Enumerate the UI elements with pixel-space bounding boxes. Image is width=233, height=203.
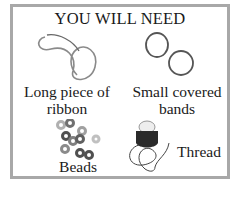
supplies-panel: YOU WILL NEED Long piece of ribbon Small…	[10, 4, 230, 179]
bands-label-line2: bands	[125, 100, 229, 117]
beads-icon	[53, 119, 109, 161]
ribbon-icon	[33, 27, 113, 83]
ribbon-label: Long piece of ribbon	[11, 83, 123, 117]
panel-title: YOU WILL NEED	[13, 9, 227, 29]
ribbon-label-line1: Long piece of	[11, 83, 123, 100]
thread-label: Thread	[171, 143, 227, 160]
thread-spool-icon	[125, 119, 177, 177]
bands-icon	[141, 31, 201, 79]
bands-label: Small covered bands	[125, 83, 229, 117]
ribbon-label-line2: ribbon	[11, 100, 123, 117]
beads-label: Beads	[43, 158, 113, 175]
bands-label-line1: Small covered	[125, 83, 229, 100]
